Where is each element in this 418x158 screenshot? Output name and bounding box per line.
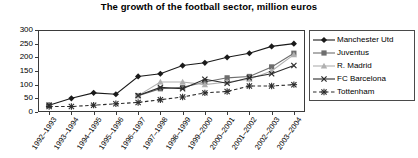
data-point-star <box>68 103 74 109</box>
data-point-x <box>291 63 296 68</box>
legend-marker-x-icon <box>312 73 336 85</box>
legend-label: Manchester Utd <box>336 35 393 44</box>
series-line <box>49 44 294 105</box>
data-point-diamond <box>291 41 297 47</box>
data-point-star <box>268 83 274 89</box>
data-point-star <box>246 83 252 89</box>
data-point-diamond <box>91 90 97 96</box>
plot-area <box>38 30 305 112</box>
y-axis-label: 300 <box>20 26 33 34</box>
data-point-diamond <box>68 95 74 101</box>
series-juventus <box>47 51 297 108</box>
data-point-star <box>321 88 327 94</box>
data-point-diamond <box>224 54 230 60</box>
data-point-star <box>113 101 119 107</box>
data-point-diamond <box>246 50 252 56</box>
legend-item[interactable]: Juventus <box>312 46 414 59</box>
legend-item[interactable]: Manchester Utd <box>312 33 414 46</box>
legend-marker-square-icon <box>312 47 336 59</box>
legend-label: FC Barcelona <box>336 74 386 83</box>
legend-item[interactable]: Tottenham <box>312 85 414 98</box>
data-point-diamond <box>269 43 275 49</box>
data-point-star <box>179 94 185 100</box>
data-point-star <box>202 90 208 96</box>
legend-marker-triangle-icon <box>312 60 336 72</box>
data-point-star <box>135 99 141 105</box>
data-point-star <box>291 81 297 87</box>
chart-container: The growth of the football sector, milli… <box>0 0 418 158</box>
data-point-star <box>90 102 96 108</box>
data-point-diamond <box>157 71 163 77</box>
data-point-star <box>157 97 163 103</box>
legend-label: R. Madrid <box>336 61 372 70</box>
y-axis-label: 100 <box>20 81 33 89</box>
data-point-square <box>321 50 326 55</box>
data-point-star <box>224 88 230 94</box>
y-axis-label: 250 <box>20 40 33 48</box>
data-point-star <box>46 103 52 109</box>
legend-marker-star-icon <box>312 86 336 98</box>
chart-title: The growth of the football sector, milli… <box>0 1 418 12</box>
legend-item[interactable]: R. Madrid <box>312 59 414 72</box>
legend-item[interactable]: FC Barcelona <box>312 72 414 85</box>
data-point-diamond <box>180 62 186 68</box>
y-axis-label: 150 <box>20 67 33 75</box>
data-point-diamond <box>321 36 327 42</box>
y-axis-label: 50 <box>24 94 33 102</box>
legend-marker-diamond-icon <box>312 34 336 46</box>
series-r-madrid <box>46 51 297 107</box>
legend-label: Tottenham <box>336 87 374 96</box>
x-axis-labels: 1992–19931993–19941994–19951995–19961996… <box>0 112 418 158</box>
data-point-diamond <box>202 60 208 66</box>
y-axis-label: 200 <box>20 53 33 61</box>
legend-label: Juventus <box>336 48 369 57</box>
chart-legend: Manchester UtdJuventusR. MadridFC Barcel… <box>309 30 415 101</box>
